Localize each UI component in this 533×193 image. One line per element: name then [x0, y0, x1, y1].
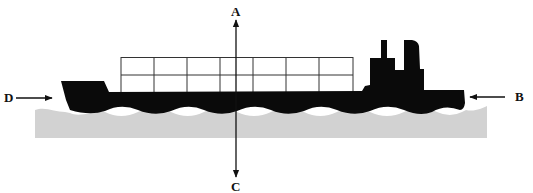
- container-stack: [121, 58, 353, 93]
- ship-force-diagram: A B C D: [0, 0, 533, 193]
- label-a: A: [231, 5, 240, 18]
- label-c: C: [231, 180, 240, 193]
- label-b: B: [515, 90, 524, 103]
- diagram-canvas: [0, 0, 533, 193]
- label-d: D: [4, 91, 13, 104]
